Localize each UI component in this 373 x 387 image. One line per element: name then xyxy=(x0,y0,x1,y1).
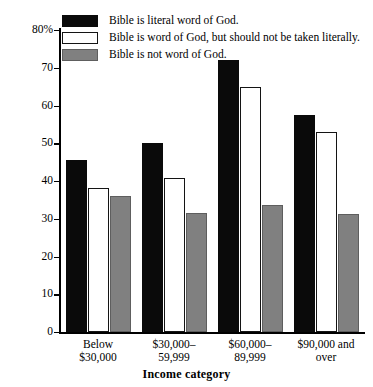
bar-group xyxy=(212,30,288,332)
y-tick-mark xyxy=(54,181,60,182)
bar-group xyxy=(60,30,136,332)
y-tick-label: 10 xyxy=(42,289,54,301)
bar xyxy=(294,115,315,332)
y-tick-mark xyxy=(54,143,60,144)
x-category-label: $30,000– 59,999 xyxy=(136,338,212,364)
y-tick-label: 40 xyxy=(42,175,54,187)
y-tick-label: 20 xyxy=(42,251,54,263)
bar xyxy=(164,178,185,332)
y-tick-mark xyxy=(54,219,60,220)
plot-area xyxy=(60,30,364,332)
y-tick-mark xyxy=(54,68,60,69)
bar xyxy=(66,160,87,332)
bar-group xyxy=(136,30,212,332)
y-tick-mark xyxy=(54,294,60,295)
bar xyxy=(316,132,337,332)
x-category-label: $90,000 and over xyxy=(288,338,364,364)
x-category-label: $60,000– 89,999 xyxy=(212,338,288,364)
bar xyxy=(110,196,131,332)
y-tick-mark xyxy=(54,30,60,31)
bar xyxy=(338,214,359,332)
bar xyxy=(240,87,261,332)
bar xyxy=(262,205,283,332)
x-axis-title: Income category xyxy=(0,367,373,382)
y-tick-label: 60 xyxy=(42,100,54,112)
y-tick-label: 30 xyxy=(42,213,54,225)
x-axis-line xyxy=(59,332,365,334)
legend-swatch-literal-word xyxy=(62,15,98,27)
y-tick-mark xyxy=(54,257,60,258)
bar-group xyxy=(288,30,364,332)
y-tick-label: 80% xyxy=(32,24,53,36)
y-tick-mark xyxy=(54,106,60,107)
legend-label-literal-word: Bible is literal word of God. xyxy=(109,15,239,27)
bar xyxy=(142,143,163,332)
y-tick-label: 70 xyxy=(42,62,54,74)
y-tick-mark xyxy=(54,332,60,333)
bar-chart: Bible is literal word of God. Bible is w… xyxy=(0,0,373,387)
legend-item: Bible is literal word of God. xyxy=(62,12,360,29)
x-category-label: Below $30,000 xyxy=(60,338,136,364)
y-tick-label: 50 xyxy=(42,138,54,150)
y-tick-label: 0 xyxy=(47,326,53,338)
bar xyxy=(218,60,239,332)
bar xyxy=(186,213,207,332)
bar xyxy=(88,188,109,332)
